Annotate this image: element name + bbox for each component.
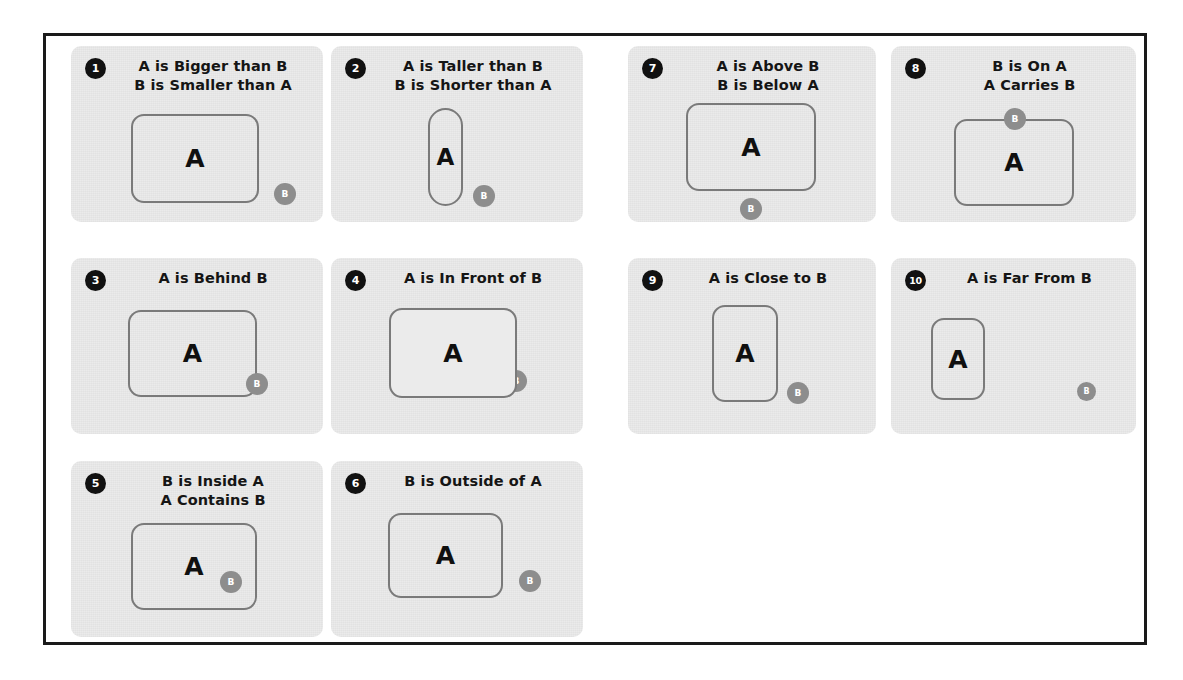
panel-title-line: B is Outside of A bbox=[371, 472, 575, 491]
panel-title: A is In Front of B bbox=[371, 269, 575, 288]
figure-frame: 1 A is Bigger than B B is Smaller than A… bbox=[43, 33, 1147, 645]
panel-title: B is Outside of A bbox=[371, 472, 575, 491]
panel-title: A is Above B B is Below A bbox=[668, 57, 868, 96]
shape-b: B bbox=[1004, 108, 1026, 130]
shape-b: B bbox=[246, 373, 268, 395]
shape-a: A bbox=[128, 310, 257, 397]
shape-a: A bbox=[931, 318, 985, 400]
shape-a: A bbox=[131, 114, 259, 203]
panel-3: 3 A is Behind B A B bbox=[71, 258, 323, 434]
panel-title-line: A Contains B bbox=[111, 491, 315, 510]
panel-title-line: B is Shorter than A bbox=[371, 76, 575, 95]
panel-10: 10 A is Far From B A B bbox=[891, 258, 1136, 434]
shape-b: B bbox=[519, 570, 541, 592]
shape-b: B bbox=[473, 185, 495, 207]
shape-b: B bbox=[220, 571, 242, 593]
panel-number-badge: 8 bbox=[905, 58, 926, 79]
panel-2: 2 A is Taller than B B is Shorter than A… bbox=[331, 46, 583, 222]
panel-title: A is Bigger than B B is Smaller than A bbox=[111, 57, 315, 96]
shape-a: A bbox=[131, 523, 257, 610]
shape-b-label: B bbox=[282, 189, 289, 199]
panel-title: A is Close to B bbox=[668, 269, 868, 288]
panel-number-badge: 9 bbox=[642, 270, 663, 291]
shape-a: A bbox=[686, 103, 816, 191]
panel-4: 4 A is In Front of B B A bbox=[331, 258, 583, 434]
shape-a-label: A bbox=[183, 341, 202, 366]
shape-b: B bbox=[274, 183, 296, 205]
panel-7: 7 A is Above B B is Below A A B bbox=[628, 46, 876, 222]
shape-a: A bbox=[388, 513, 503, 598]
shape-a-label: A bbox=[184, 554, 203, 579]
shape-b-label: B bbox=[254, 379, 261, 389]
shape-b-label: B bbox=[527, 576, 534, 586]
shape-b: B bbox=[740, 198, 762, 220]
shape-b: B bbox=[787, 382, 809, 404]
panel-title-line: A is In Front of B bbox=[371, 269, 575, 288]
shape-b-label: B bbox=[795, 388, 802, 398]
panel-title-line: A is Close to B bbox=[668, 269, 868, 288]
panel-title-line: B is Below A bbox=[668, 76, 868, 95]
shape-a-label: A bbox=[1004, 150, 1023, 175]
shape-b-label: B bbox=[481, 191, 488, 201]
panel-number-badge: 4 bbox=[345, 270, 366, 291]
panel-title: A is Behind B bbox=[111, 269, 315, 288]
panel-9: 9 A is Close to B A B bbox=[628, 258, 876, 434]
panel-title-line: A is Bigger than B bbox=[111, 57, 315, 76]
shape-a: A bbox=[954, 119, 1074, 206]
shape-a-label: A bbox=[437, 146, 455, 169]
panel-6: 6 B is Outside of A A B bbox=[331, 461, 583, 637]
shape-b-label: B bbox=[228, 577, 235, 587]
panel-8: 8 B is On A A Carries B A B bbox=[891, 46, 1136, 222]
shape-b: B bbox=[1077, 382, 1096, 401]
shape-a-label: A bbox=[443, 341, 462, 366]
panel-title-line: A is Behind B bbox=[111, 269, 315, 288]
shape-a-label: A bbox=[436, 543, 455, 568]
shape-b-label: B bbox=[1083, 387, 1089, 396]
panel-title: A is Taller than B B is Shorter than A bbox=[371, 57, 575, 96]
panel-title: B is Inside A A Contains B bbox=[111, 472, 315, 511]
panel-number-badge: 3 bbox=[85, 270, 106, 291]
panel-title-line: B is Inside A bbox=[111, 472, 315, 491]
shape-b-label: B bbox=[1012, 114, 1019, 124]
panel-1: 1 A is Bigger than B B is Smaller than A… bbox=[71, 46, 323, 222]
shape-a-label: A bbox=[735, 341, 754, 366]
panel-title: A is Far From B bbox=[931, 269, 1128, 288]
panel-title-line: B is On A bbox=[931, 57, 1128, 76]
panel-number-badge: 10 bbox=[905, 270, 926, 291]
panel-number-badge: 2 bbox=[345, 58, 366, 79]
panel-number-badge: 5 bbox=[85, 473, 106, 494]
panel-number-badge: 7 bbox=[642, 58, 663, 79]
shape-a: A bbox=[428, 108, 463, 206]
panel-title-line: A is Far From B bbox=[931, 269, 1128, 288]
shape-b-label: B bbox=[748, 204, 755, 214]
shape-a-label: A bbox=[185, 146, 204, 171]
panel-title-line: A is Taller than B bbox=[371, 57, 575, 76]
panel-number-badge: 1 bbox=[85, 58, 106, 79]
shape-a-label: A bbox=[741, 135, 760, 160]
shape-a: A bbox=[712, 305, 778, 402]
panel-5: 5 B is Inside A A Contains B A B bbox=[71, 461, 323, 637]
panel-title-line: A is Above B bbox=[668, 57, 868, 76]
panel-title-line: A Carries B bbox=[931, 76, 1128, 95]
panel-title-line: B is Smaller than A bbox=[111, 76, 315, 95]
panel-title: B is On A A Carries B bbox=[931, 57, 1128, 96]
shape-a-label: A bbox=[948, 347, 967, 372]
shape-a: A bbox=[389, 308, 517, 398]
panel-number-badge: 6 bbox=[345, 473, 366, 494]
